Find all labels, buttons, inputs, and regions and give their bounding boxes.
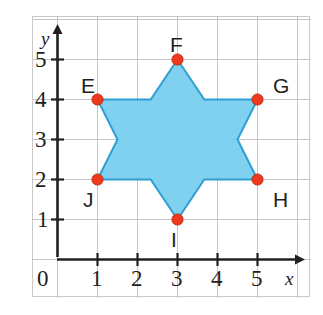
- x-tick-2: 2: [131, 267, 143, 290]
- x-axis-label: x: [285, 269, 293, 288]
- x-tick-3: 3: [171, 267, 183, 290]
- x-tick-5: 5: [251, 267, 263, 290]
- y-tick-5: 5: [35, 48, 47, 71]
- vertex-label-F: F: [170, 34, 183, 55]
- y-tick-3: 3: [35, 128, 47, 151]
- x-tick-4: 4: [211, 267, 223, 290]
- x-axis-arrow: [295, 255, 305, 265]
- vertex-label-G: G: [273, 75, 289, 96]
- vertex-label-J: J: [83, 189, 94, 210]
- axes: [33, 17, 311, 298]
- y-tick-1: 1: [37, 208, 49, 231]
- y-tick-2: 2: [35, 168, 47, 191]
- y-axis-arrow: [53, 24, 63, 34]
- origin-label: 0: [37, 267, 49, 290]
- plot-frame: 5 4 3 2 1 0 1 2 3 4 5 y x E F G H I J: [32, 16, 310, 297]
- y-tick-4: 4: [35, 88, 47, 111]
- figure-canvas: 5 4 3 2 1 0 1 2 3 4 5 y x E F G H I J: [0, 0, 323, 315]
- vertex-label-E: E: [81, 75, 95, 96]
- y-axis-label: y: [41, 29, 49, 48]
- x-tick-1: 1: [91, 267, 103, 290]
- vertex-label-H: H: [273, 189, 288, 210]
- vertex-label-I: I: [171, 229, 177, 250]
